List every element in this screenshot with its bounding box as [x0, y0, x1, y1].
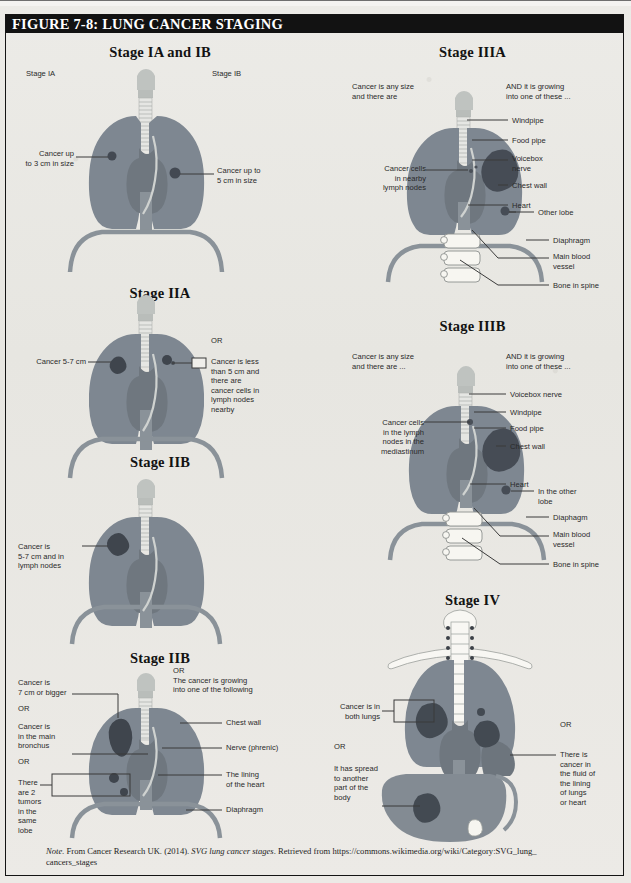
panel-stage-2b-bottom: Stage IIB — [10, 650, 310, 840]
diaphragm-label: Diaphragm — [226, 805, 263, 815]
both-lungs-label: Cancer is in both lungs — [320, 702, 380, 721]
or-divider-right: OR — [560, 720, 571, 730]
bone-in-spine-label: Bone in spine — [553, 281, 599, 291]
tumor-less-5cm — [162, 355, 172, 365]
diaphragm-shape — [70, 232, 222, 272]
upper-trachea — [138, 314, 153, 321]
upper-trachea — [138, 90, 153, 98]
lymph-node-mark-1 — [469, 169, 473, 173]
diaphragm-label: Diaphagm — [553, 513, 588, 523]
panel-stage-2b-mid: Stage IIB Cancer is 5-7 cm and in lymph … — [10, 470, 310, 645]
or-growing-label: OR The cancer is growing into one of the… — [173, 666, 313, 695]
or-divider-2: OR — [18, 757, 29, 767]
tumor-2-same-lobe — [120, 788, 128, 796]
tumor-left-lung — [474, 720, 500, 747]
panel-stage-1a-1b: Stage IA and IB Stage IA Stage IB — [10, 44, 310, 294]
larynx-shape — [137, 295, 155, 314]
larynx-shape — [137, 673, 155, 691]
chest-wall-label: Chest wall — [226, 718, 261, 728]
tumor-left-lung-small — [477, 708, 485, 716]
leader-line-7cm — [72, 694, 118, 718]
fluid-lining-label: There is cancer in the fluid of the lini… — [560, 750, 622, 808]
upper-trachea — [458, 386, 473, 393]
lining-heart-label: The lining of the heart — [226, 770, 304, 789]
food-pipe-label: Food pipe — [510, 424, 544, 434]
heart-label: Heart — [510, 480, 529, 490]
cancer-7cm-label: Cancer is 7 cm or bigger — [18, 678, 88, 697]
two-tumors-label: There are 2 tumors in the same lobe — [18, 778, 52, 836]
figure-note: Note. From Cancer Research UK. (2014). S… — [46, 846, 616, 868]
panel-stage-3b: Stage IIIB Cancer is any size and there … — [320, 318, 625, 578]
gallbladder-shape — [468, 820, 482, 837]
larynx-shape — [457, 366, 475, 386]
page-top-rule — [0, 0, 631, 6]
food-pipe-label: Food pipe — [512, 136, 546, 146]
tumor-stage-ib — [170, 168, 181, 179]
note-italic-title: SVG lung cancer stages — [191, 846, 273, 856]
main-blood-vessel-label: Main blood vessel — [553, 252, 619, 271]
liver-shape — [382, 774, 506, 842]
panel-stage-2a: Stage IIA — [10, 300, 310, 480]
voicebox-nerve-label: Voicebox nerve — [510, 390, 562, 400]
chest-wall-label: Chest wall — [512, 181, 547, 191]
cancer-3cm-label: Cancer up to 3 cm in size — [10, 149, 74, 168]
cancer-less-5cm-label: Cancer is less than 5 cm and there are c… — [211, 357, 303, 415]
other-lobe-label: Other lobe — [538, 208, 573, 218]
larynx-shape — [455, 91, 473, 110]
other-lobe-label: In the other lobe — [538, 487, 608, 506]
panel-stage-4: Stage IV — [320, 592, 625, 837]
cancer-cells-mediastinum-label: Cancer cells in the lymph nodes in the m… — [328, 418, 424, 456]
note-label: Note. — [46, 846, 64, 856]
main-blood-vessel-label: Main blood vessel — [553, 530, 619, 549]
panel-title: Stage IIB — [10, 454, 310, 471]
note-text-after: . Retrieved from https://commons.wikimed… — [274, 846, 537, 856]
larynx-shape — [137, 69, 155, 90]
figure-title: FIGURE 7-8: LUNG CANCER STAGING — [12, 16, 612, 32]
figure-page: FIGURE 7-8: LUNG CANCER STAGING Stage IA… — [0, 0, 631, 883]
or-divider-left: OR — [334, 742, 345, 752]
tumor-other-lobe — [501, 207, 510, 216]
upper-trachea — [138, 691, 153, 698]
lymph-node-mark-2 — [474, 165, 477, 168]
leader-bracket-box — [192, 358, 206, 368]
spine-vertebrae — [441, 234, 480, 282]
nerve-phrenic-label: Nerve (phrenic) — [226, 743, 278, 753]
larynx-shape — [137, 479, 155, 498]
cancer-5cm-label: Cancer up to 5 cm in size — [217, 166, 307, 185]
upper-trachea — [456, 110, 471, 117]
cancer-5-7cm-label: Cancer 5-7 cm — [10, 357, 86, 367]
voicebox-nerve-label: Voicebox nerve — [512, 154, 543, 173]
windpipe-label: Windpipe — [512, 116, 544, 126]
upper-trachea — [138, 498, 153, 505]
spread-label: It has spread to another part of the bod… — [334, 764, 396, 802]
tumor-stage-ia — [108, 152, 117, 161]
or-divider-1: OR — [18, 704, 29, 714]
chest-wall-label: Chest wall — [510, 442, 545, 452]
note-text-before: From Cancer Research UK. (2014). — [64, 846, 191, 856]
bone-in-spine-label: Bone in spine — [553, 560, 599, 570]
windpipe-label: Windpipe — [510, 408, 542, 418]
cancer-bronchus-label: Cancer is in the main bronchus — [18, 722, 80, 751]
or-divider: OR — [211, 336, 222, 346]
cancer-cells-nodes-label: Cancer cells in nearby lymph nodes — [330, 164, 426, 193]
diaphragm-label: Diaphragm — [553, 236, 590, 246]
cancer-5-7cm-nodes-label: Cancer is 5-7 cm and in lymph nodes — [18, 542, 82, 571]
note-line2: cancers_stages — [46, 857, 97, 867]
heart-label: Heart — [512, 201, 531, 211]
spine-vertebrae — [443, 512, 482, 560]
panel-stage-3a: Stage IIIA Cancer is any size and there … — [320, 44, 625, 294]
